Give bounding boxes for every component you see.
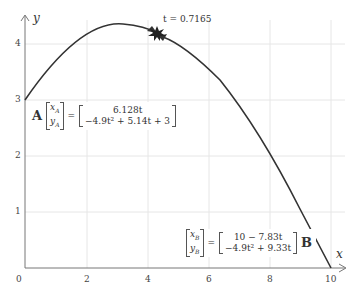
eq-a-lhs: xA yA xyxy=(46,102,63,130)
trajectory-a xyxy=(25,24,157,100)
y-tick-3: 3 xyxy=(15,94,21,104)
label-a: A xyxy=(32,108,42,123)
x-tick-8: 8 xyxy=(267,274,273,284)
x-tick-10: 10 xyxy=(325,274,336,284)
equation-b: xB yB = 10 − 7.83t −4.9t² + 9.33t B xyxy=(186,229,316,257)
equation-a: A xA yA = 6.128t −4.9t² + 5.14t + 3 xyxy=(28,102,176,130)
x-tick-2: 2 xyxy=(84,274,90,284)
x-tick-4: 4 xyxy=(145,274,151,284)
y-axis-label: y xyxy=(33,11,40,25)
eq-a-rhs: 6.128t −4.9t² + 5.14t + 3 xyxy=(79,105,176,127)
eq-b-lhs: xB yB xyxy=(186,229,204,257)
x-tick-6: 6 xyxy=(206,274,212,284)
x-tick-0: 0 xyxy=(16,274,22,284)
y-tick-1: 1 xyxy=(15,206,21,216)
y-tick-2: 2 xyxy=(15,150,21,160)
label-b: B xyxy=(301,235,312,250)
eq-b-rhs: 10 − 7.83t −4.9t² + 9.33t xyxy=(219,232,297,254)
collision-annotation: t = 0.7165 xyxy=(163,14,211,24)
y-tick-4: 4 xyxy=(15,38,21,48)
x-axis-label: x xyxy=(336,247,343,261)
